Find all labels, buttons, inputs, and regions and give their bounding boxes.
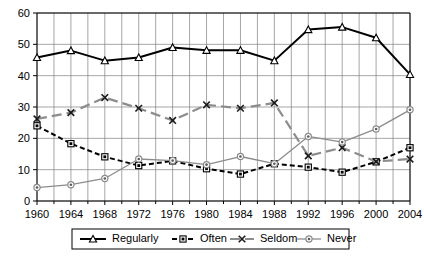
legend-label-never: Never xyxy=(327,232,357,244)
legend-label-seldom: Seldom xyxy=(260,232,297,244)
line-chart: 0102030405060 19601964196819721976198019… xyxy=(0,0,424,262)
x-tick-label: 1976 xyxy=(160,208,184,220)
x-tick-label: 1988 xyxy=(262,208,286,220)
x-tick-label: 2000 xyxy=(364,208,388,220)
y-tick-label: 20 xyxy=(18,132,30,144)
data-point-marker-square-core xyxy=(341,171,344,174)
y-tick-label: 10 xyxy=(18,164,30,176)
data-point-marker-circle-core xyxy=(36,186,39,189)
data-point-marker-circle-core xyxy=(70,183,73,186)
y-tick-label: 40 xyxy=(18,70,30,82)
x-tick-label: 1980 xyxy=(194,208,218,220)
data-point-marker-circle-core xyxy=(273,162,276,165)
chart-background xyxy=(0,0,424,262)
data-point-marker-square-core xyxy=(137,164,140,167)
legend-label-regularly: Regularly xyxy=(112,232,159,244)
y-tick-label: 60 xyxy=(18,7,30,19)
y-tick-label: 50 xyxy=(18,38,30,50)
data-point-marker-circle-core xyxy=(239,155,242,158)
legend-label-often: Often xyxy=(200,232,227,244)
x-tick-label: 1984 xyxy=(228,208,252,220)
x-tick-label: 1992 xyxy=(296,208,320,220)
data-point-marker-square-core xyxy=(182,238,185,241)
data-point-marker-circle-core xyxy=(205,163,208,166)
data-point-marker-circle-core xyxy=(375,128,378,131)
x-tick-label: 1960 xyxy=(25,208,49,220)
x-tick-label: 1964 xyxy=(59,208,83,220)
data-point-marker-square-core xyxy=(307,166,310,169)
data-point-marker-circle-core xyxy=(171,159,174,162)
data-point-marker-circle-core xyxy=(307,135,310,138)
data-point-marker-square-core xyxy=(103,155,106,158)
x-tick-label: 1972 xyxy=(126,208,150,220)
data-point-marker-square-core xyxy=(239,173,242,176)
data-point-marker-square-core xyxy=(36,124,39,127)
data-point-marker-circle-core xyxy=(308,238,311,241)
chart-legend: RegularlyOftenSeldomNever xyxy=(72,229,357,249)
data-point-marker-circle-core xyxy=(137,158,140,161)
data-point-marker-square-core xyxy=(409,146,412,149)
data-point-marker-circle-core xyxy=(341,141,344,144)
data-point-marker-circle-core xyxy=(104,177,107,180)
x-tick-label: 1996 xyxy=(330,208,354,220)
y-tick-label: 0 xyxy=(24,195,30,207)
data-point-marker-square-core xyxy=(70,142,73,145)
chart-canvas: 0102030405060 19601964196819721976198019… xyxy=(0,0,424,262)
y-tick-label: 30 xyxy=(18,101,30,113)
data-point-marker-circle-core xyxy=(409,109,412,112)
x-tick-label: 2004 xyxy=(398,208,422,220)
x-tick-label: 1968 xyxy=(93,208,117,220)
